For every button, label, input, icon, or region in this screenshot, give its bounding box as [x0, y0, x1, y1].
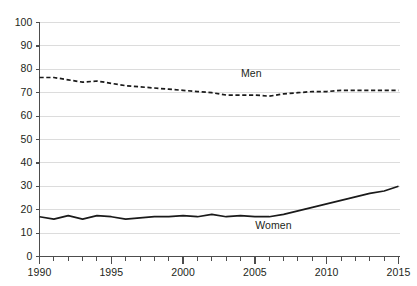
x-tick-label: 2010 — [307, 266, 347, 278]
chart-canvas — [0, 0, 417, 286]
y-tick-label: 10 — [0, 226, 33, 238]
y-tick-label: 40 — [0, 156, 33, 168]
x-tick-label: 2015 — [379, 266, 417, 278]
series-line-women — [40, 186, 399, 219]
series-line-men — [40, 77, 399, 96]
y-tick-label: 20 — [0, 203, 33, 215]
y-tick-label: 0 — [0, 250, 33, 262]
series-label-men: Men — [241, 67, 262, 79]
y-tick-label: 70 — [0, 86, 33, 98]
x-axis-ticks — [40, 257, 399, 264]
y-tick-label: 50 — [0, 133, 33, 145]
series-paths — [40, 77, 399, 219]
x-tick-label: 1995 — [91, 266, 131, 278]
y-tick-label: 90 — [0, 39, 33, 51]
x-tick-label: 1990 — [20, 266, 60, 278]
x-tick-label: 2000 — [163, 266, 203, 278]
y-tick-label: 80 — [0, 62, 33, 74]
line-chart: 0102030405060708090100 19901995200020052… — [0, 0, 417, 286]
y-tick-label: 100 — [0, 16, 33, 28]
x-tick-label: 2005 — [235, 266, 275, 278]
series-label-women: Women — [255, 219, 292, 231]
y-tick-label: 30 — [0, 179, 33, 191]
y-tick-label: 60 — [0, 109, 33, 121]
gridlines — [40, 23, 400, 257]
